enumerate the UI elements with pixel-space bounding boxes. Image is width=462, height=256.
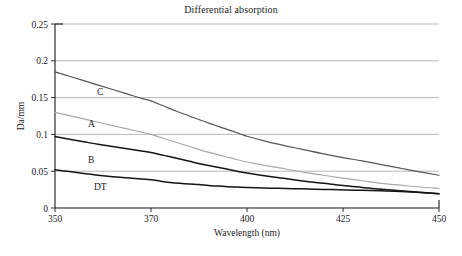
x-tick-label-400: 400	[240, 214, 255, 224]
y-tick-label-0.25: 0.25	[31, 20, 48, 30]
x-tick-labels: 350 370 400 425 450	[48, 214, 447, 224]
y-tick-label-0.2: 0.2	[36, 56, 48, 66]
y-tick-label-0.15: 0.15	[31, 93, 48, 103]
page-margin-strip	[0, 238, 462, 256]
x-tick-label-425: 425	[336, 214, 351, 224]
y-tick-label-0.1: 0.1	[36, 130, 48, 140]
plot-area-background	[55, 24, 439, 208]
y-axis-title: Da/mm	[16, 101, 26, 130]
x-tickmarks	[55, 208, 439, 212]
differential-absorption-line-chart: 0.25 0.2 0.15 0.1 0.05 0 350 370 400 425…	[0, 0, 462, 256]
figure-container: Differential absorption	[0, 0, 462, 256]
series-label-b: B	[88, 155, 94, 165]
y-tick-labels: 0.25 0.2 0.15 0.1 0.05 0	[31, 20, 48, 214]
y-tick-label-0.05: 0.05	[31, 167, 48, 177]
x-tick-label-450: 450	[432, 214, 447, 224]
series-label-dt: DT	[94, 182, 107, 192]
y-tick-label-0: 0	[43, 204, 48, 214]
series-label-a: A	[88, 119, 95, 129]
x-tick-label-370: 370	[144, 214, 159, 224]
x-tick-label-350: 350	[48, 214, 63, 224]
series-label-c: C	[97, 87, 103, 97]
y-tickmarks	[51, 24, 55, 208]
